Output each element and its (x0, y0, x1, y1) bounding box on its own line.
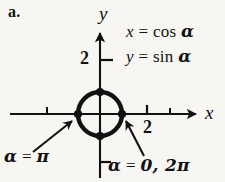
equation-x-function: cos (153, 22, 177, 41)
equation-y-of-alpha: y = sin α (126, 48, 192, 65)
x-axis-tick-label-2: 2 (143, 118, 152, 136)
annotation-left-symbol: α (4, 146, 17, 166)
y-axis-tick-label-2: 2 (80, 49, 89, 67)
annotation-right-value: 0, 2π (140, 155, 189, 175)
annotation-right-equals: = (126, 156, 136, 175)
y-axis-label: y (99, 4, 107, 23)
equation-x-argument: α (181, 21, 194, 41)
x-axis-label: x (205, 103, 213, 122)
annotation-left-value: π (36, 146, 49, 166)
equation-y-lhs: y (126, 47, 134, 66)
equation-x-lhs: x (126, 22, 134, 41)
equation-x-of-alpha: x = cos α (126, 23, 194, 40)
equation-x-equals: = (138, 22, 148, 41)
equation-y-equals: = (138, 47, 148, 66)
annotation-right-symbol: α (108, 155, 121, 175)
point-top (96, 88, 104, 96)
annotation-label-alpha-zero-2pi: α = 0, 2π (108, 157, 190, 174)
point-alpha-0-2pi (118, 110, 126, 118)
annotation-label-alpha-pi: α = π (4, 148, 49, 165)
equation-y-function: sin (153, 47, 174, 66)
point-bottom (96, 132, 104, 140)
annotation-left-equals: = (22, 147, 32, 166)
parametric-unit-circle-figure: a. y x 2 2 x = cos α y = sin α α = π α =… (0, 0, 225, 182)
equation-y-argument: α (178, 46, 191, 66)
annotation-arrow-alpha-zero (126, 121, 144, 156)
point-alpha-pi (74, 110, 82, 118)
part-label: a. (8, 4, 20, 20)
